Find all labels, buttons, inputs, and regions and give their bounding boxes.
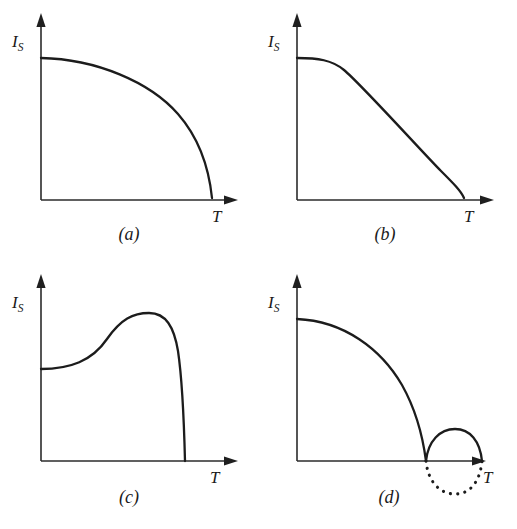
y-axis-arrow-d bbox=[292, 274, 301, 288]
y-axis-arrow-a bbox=[36, 13, 45, 27]
curve-c bbox=[41, 313, 185, 461]
y-axis-label-a: IS bbox=[11, 32, 24, 53]
y-axis-label-b: IS bbox=[267, 32, 280, 53]
x-axis-arrow-c bbox=[224, 456, 238, 465]
caption-c: (c) bbox=[119, 487, 139, 508]
curve-a bbox=[41, 58, 212, 198]
curve-b bbox=[297, 58, 464, 198]
panel-a: IS T (a) bbox=[0, 0, 258, 264]
caption-d: (d) bbox=[379, 487, 400, 508]
x-axis-arrow-d bbox=[472, 456, 486, 465]
caption-a: (a) bbox=[119, 224, 140, 245]
four-panel-figure: IS T (a) IS T (b) IS T (c) bbox=[0, 0, 517, 529]
y-axis-label-c: IS bbox=[11, 293, 24, 314]
curve-d-main bbox=[297, 319, 426, 461]
curve-d-dotted-arc bbox=[426, 461, 482, 494]
x-axis-label-c: T bbox=[210, 468, 221, 487]
panel-c: IS T (c) bbox=[0, 261, 258, 525]
x-axis-arrow-a bbox=[224, 195, 238, 204]
y-axis-label-d: IS bbox=[267, 293, 280, 314]
caption-b: (b) bbox=[375, 224, 396, 245]
curve-d-bump bbox=[426, 429, 482, 461]
x-axis-arrow-b bbox=[480, 195, 494, 204]
panel-d: IS T (d) bbox=[256, 261, 514, 525]
y-axis-arrow-b bbox=[292, 13, 301, 27]
panel-b: IS T (b) bbox=[256, 0, 514, 264]
x-axis-label-b: T bbox=[464, 207, 475, 226]
x-axis-label-d: T bbox=[483, 468, 494, 487]
y-axis-arrow-c bbox=[36, 274, 45, 288]
x-axis-label-a: T bbox=[212, 207, 223, 226]
